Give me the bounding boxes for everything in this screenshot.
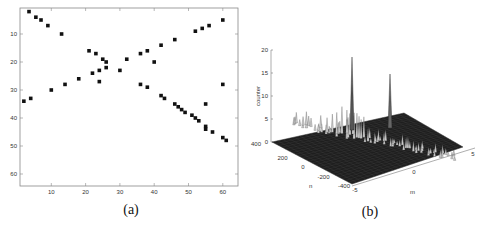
- data-point: [101, 57, 105, 61]
- m-tick-label: 0: [412, 169, 416, 175]
- data-point: [22, 99, 26, 103]
- data-point: [159, 94, 163, 98]
- x-tick-label: 30: [117, 189, 124, 195]
- data-point: [125, 57, 129, 61]
- data-point: [200, 27, 204, 31]
- n-tick-label: 0: [301, 164, 305, 170]
- data-point: [77, 77, 81, 81]
- data-point: [27, 10, 31, 14]
- data-point: [104, 66, 108, 70]
- data-point: [63, 83, 67, 87]
- y-tick-label: 40: [10, 115, 17, 121]
- data-point: [98, 80, 102, 84]
- m-tick-label: 5: [471, 151, 475, 157]
- data-point: [139, 52, 143, 56]
- z-tick-label: 0: [265, 139, 269, 145]
- z-tick-label: 15: [261, 70, 268, 76]
- data-point: [204, 102, 208, 106]
- caption-a: (a): [123, 202, 139, 218]
- n-tick-label: -400: [338, 183, 351, 189]
- m-tick-label: -5: [352, 187, 358, 193]
- data-point: [224, 139, 228, 143]
- data-point: [94, 52, 98, 56]
- y-tick-label: 60: [10, 171, 17, 177]
- data-point: [221, 18, 225, 22]
- surface-panel-b: 05101520 counter -505 m 4002000-200-400 …: [251, 47, 475, 195]
- y-tick-label: 50: [10, 143, 17, 149]
- x-tick-label: 50: [185, 189, 192, 195]
- data-point: [204, 127, 208, 131]
- z-axis-label: counter: [255, 86, 261, 106]
- data-point: [29, 97, 33, 101]
- n-axis-label: n: [309, 183, 312, 189]
- data-point: [173, 38, 177, 42]
- data-point: [221, 136, 225, 140]
- peak-spike-2: [388, 74, 392, 128]
- y-tick-label: 30: [10, 87, 17, 93]
- data-point: [98, 69, 102, 73]
- data-point: [146, 49, 150, 53]
- data-point: [152, 60, 156, 64]
- data-point: [176, 105, 180, 109]
- x-tick-label: 40: [151, 189, 158, 195]
- n-tick-label: -200: [317, 174, 330, 180]
- caption-b: (b): [362, 204, 379, 220]
- y-tick-label: 20: [10, 59, 17, 65]
- z-tick-label: 5: [265, 116, 269, 122]
- data-point: [139, 83, 143, 87]
- z-tick-label: 10: [261, 93, 268, 99]
- data-point: [159, 43, 163, 47]
- data-point: [87, 49, 91, 53]
- figure: 102030405060 102030405060 (a) 05101520 c…: [0, 0, 486, 225]
- data-point: [173, 102, 177, 106]
- data-point: [221, 83, 225, 87]
- data-point: [180, 108, 184, 112]
- data-point: [34, 15, 38, 19]
- data-point: [46, 24, 50, 28]
- data-point: [207, 24, 211, 28]
- x-tick-label: 10: [48, 189, 55, 195]
- x-tick-label: 60: [219, 189, 226, 195]
- y-tick-label: 10: [10, 31, 17, 37]
- x-tick-label: 20: [82, 189, 89, 195]
- data-point: [146, 85, 150, 89]
- z-tick-label: 20: [261, 47, 268, 53]
- n-tick-label: 200: [277, 155, 288, 161]
- data-point: [60, 32, 64, 36]
- data-point: [104, 60, 108, 64]
- data-point: [39, 18, 43, 22]
- scatter-panel-a: 102030405060 102030405060: [10, 8, 238, 195]
- axes-box-a: [20, 8, 238, 186]
- data-point: [197, 119, 201, 123]
- data-point: [211, 130, 215, 134]
- data-point: [194, 116, 198, 120]
- data-point: [190, 113, 194, 117]
- data-point: [183, 111, 187, 115]
- m-axis-label: m: [410, 189, 415, 195]
- data-point: [91, 71, 95, 75]
- peak-spike-1: [350, 57, 354, 130]
- data-point: [194, 29, 198, 33]
- data-point: [50, 88, 54, 92]
- n-tick-label: 400: [251, 141, 262, 147]
- data-point: [118, 69, 122, 73]
- data-point: [163, 97, 167, 101]
